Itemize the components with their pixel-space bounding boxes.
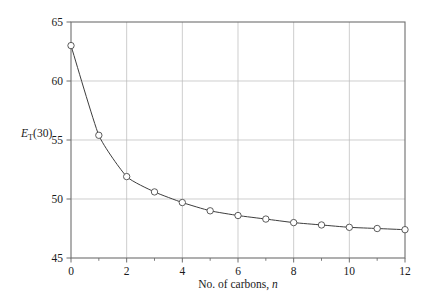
data-point-marker (263, 216, 269, 222)
chart-canvas: 4550556065 024681012 ET(30) No. of carbo… (0, 0, 432, 298)
data-point-marker (318, 222, 324, 228)
y-tick-label: 65 (52, 16, 64, 28)
data-point-marker (374, 225, 380, 231)
data-point-marker (402, 226, 408, 232)
y-tick-label: 55 (52, 134, 64, 146)
data-point-marker (346, 224, 352, 230)
data-point-marker (290, 219, 296, 225)
x-tick-label: 0 (68, 265, 74, 277)
x-tick-label: 8 (291, 265, 297, 277)
y-tick-label: 45 (52, 252, 64, 264)
x-tick-label: 4 (179, 265, 185, 277)
x-tick-label: 10 (344, 265, 356, 277)
data-point-marker (179, 199, 185, 205)
data-point-marker (151, 189, 157, 195)
x-tick-label: 2 (124, 265, 130, 277)
y-tick-label: 60 (52, 75, 64, 87)
x-tick-label: 12 (399, 265, 411, 277)
x-tick-label: 6 (235, 265, 241, 277)
data-point-marker (96, 132, 102, 138)
x-axis-label: No. of carbons, n (198, 278, 278, 291)
data-point-marker (235, 212, 241, 218)
chart-background (0, 0, 432, 298)
data-point-marker (207, 208, 213, 214)
chart-figure: 4550556065 024681012 ET(30) No. of carbo… (0, 0, 432, 298)
data-point-marker (68, 42, 74, 48)
y-tick-label: 50 (52, 193, 64, 205)
data-point-marker (123, 173, 129, 179)
